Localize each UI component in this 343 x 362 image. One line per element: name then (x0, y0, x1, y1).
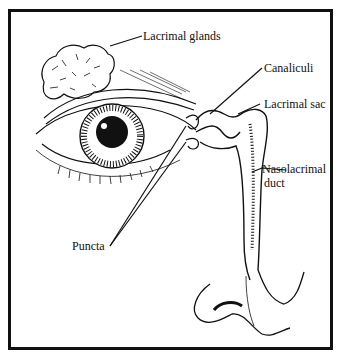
label-puncta: Puncta (72, 240, 105, 253)
leader-lacrimal-glands (110, 36, 142, 46)
lacrimal-apparatus-illustration (0, 0, 343, 362)
tear-duct-drawing (186, 109, 267, 280)
eye-drawing (80, 104, 144, 168)
label-nasolacrimal: Nasolacrimal (262, 163, 326, 176)
label-duct: duct (264, 177, 285, 190)
label-canaliculi: Canaliculi (264, 62, 313, 75)
label-lacrimal-glands: Lacrimal glands (143, 30, 221, 43)
label-lacrimal-sac: Lacrimal sac (264, 98, 326, 111)
